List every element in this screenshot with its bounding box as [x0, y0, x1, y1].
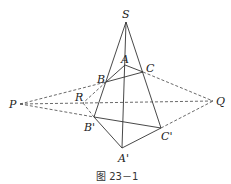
label-R: R	[74, 91, 83, 104]
dash-P-Q	[20, 101, 213, 104]
dash-Cprime-Q	[161, 101, 213, 128]
label-P: P	[8, 98, 17, 111]
dash-P-B	[20, 82, 106, 104]
dash-P-Bprime	[20, 104, 94, 117]
desargues-diagram: S A B C A' B' C' P Q R 图 23－1	[0, 0, 231, 184]
label-Cprime: C'	[161, 130, 172, 143]
label-Aprime: A'	[117, 152, 129, 165]
triangle-AprimeBprimeCprime	[94, 117, 161, 148]
figure-caption: 图 23－1	[96, 171, 138, 182]
label-S: S	[122, 8, 130, 21]
label-A: A	[120, 53, 129, 66]
label-Q: Q	[216, 95, 225, 108]
label-C: C	[146, 62, 155, 75]
edge-S-Aprime	[122, 22, 126, 148]
label-B: B	[96, 73, 105, 86]
dash-R-Bprime	[83, 103, 94, 117]
label-Bprime: B'	[83, 121, 95, 134]
dash-C-Q	[143, 72, 213, 101]
